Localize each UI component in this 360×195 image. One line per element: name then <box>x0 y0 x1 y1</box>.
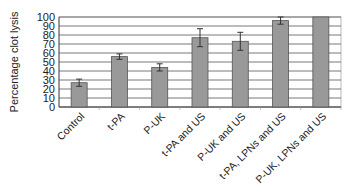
bar <box>232 41 248 107</box>
y-axis-label: Percentage clot lysis <box>8 11 20 112</box>
x-tick-label: P-UK <box>141 110 167 136</box>
plot-area: 0102030405060708090100Percentage clot ly… <box>8 11 341 185</box>
bar <box>192 38 208 107</box>
bar <box>273 21 289 107</box>
x-tick-label: t-PA <box>104 110 126 132</box>
bar-chart: 0102030405060708090100Percentage clot ly… <box>0 0 360 195</box>
bar <box>313 17 329 107</box>
x-tick-label: P-UK, LPNs and US <box>253 110 328 185</box>
bar <box>152 67 168 107</box>
y-tick-label: 100 <box>37 11 55 23</box>
bar <box>111 57 127 107</box>
x-tick-label: Control <box>54 110 86 142</box>
